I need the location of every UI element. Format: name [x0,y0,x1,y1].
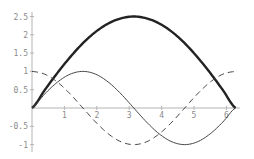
y-tick-label: 2 [23,31,28,40]
y-tick-label: -1 [18,141,28,150]
line-chart: 123456 2.521.510.5-0.5-1 [0,0,254,159]
x-tick-label: 4 [159,111,164,120]
x-tick-label: 1 [62,111,67,120]
series-thick-arch [32,17,236,109]
x-tick-label: 2 [94,111,99,120]
axes [32,12,240,152]
plot-series [32,17,236,145]
y-tick-label: 2.5 [14,13,29,22]
y-tick-label: 0.5 [14,86,29,95]
x-tick-label: 5 [192,111,197,120]
y-tick-label: 1 [23,67,28,76]
x-tick-label: 3 [127,111,132,120]
y-axis-ticks: 2.521.510.5-0.5-1 [9,13,34,150]
y-tick-label: 1.5 [14,49,29,58]
y-tick-label: -0.5 [9,122,28,131]
